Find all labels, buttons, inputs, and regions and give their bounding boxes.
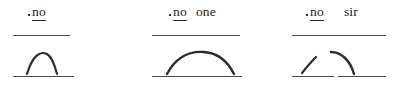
intonation-figure: no noone nosir xyxy=(0,0,398,88)
transcription-2: noone xyxy=(169,4,216,21)
word-no: no xyxy=(310,4,324,21)
word-no: no xyxy=(173,4,187,21)
transcription-3: nosir xyxy=(306,4,358,21)
upper-staff-line-2 xyxy=(152,35,240,36)
lower-staff-line-3a xyxy=(292,76,334,77)
upper-staff-line-1 xyxy=(13,35,70,36)
utterance-group-2: noone xyxy=(152,0,272,88)
transcription-1: no xyxy=(28,4,46,21)
word-one: one xyxy=(196,4,216,20)
utterance-group-3: nosir xyxy=(292,0,398,88)
word-no: no xyxy=(32,4,46,21)
lower-staff-line-3b xyxy=(338,76,386,77)
upper-staff-line-3 xyxy=(292,35,386,36)
utterance-group-1: no xyxy=(13,0,118,88)
lower-staff-line-1 xyxy=(13,76,74,77)
lower-staff-line-2 xyxy=(152,76,242,77)
word-sir: sir xyxy=(344,4,358,20)
